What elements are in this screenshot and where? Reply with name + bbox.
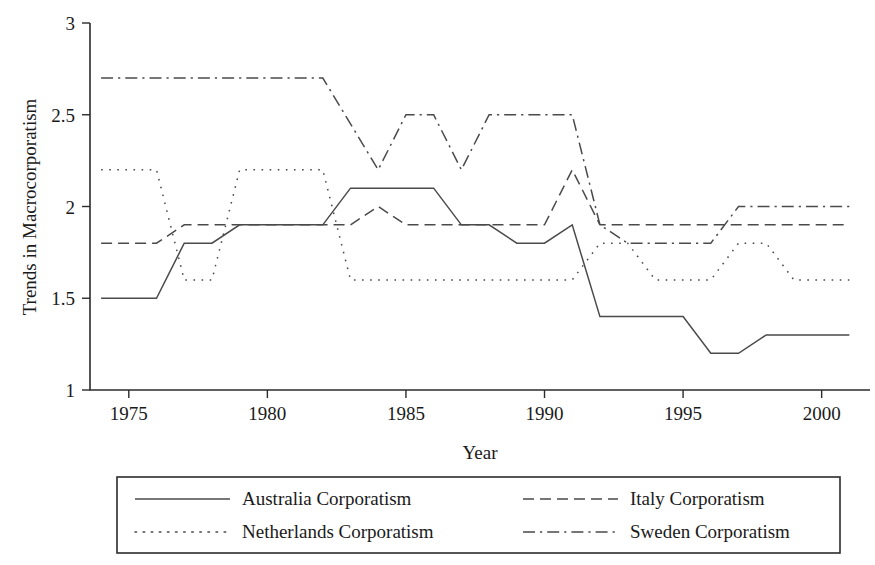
legend-label-netherlands: Netherlands Corporatism: [242, 521, 434, 542]
x-tick-label: 1995: [664, 403, 702, 424]
x-tick-label: 1975: [110, 403, 148, 424]
y-axis-tick-labels: 11.522.53: [51, 13, 75, 401]
chart-figure: 197519801985199019952000 11.522.53 Year …: [0, 0, 875, 565]
y-tick-label: 1.5: [51, 288, 75, 309]
legend-label-sweden: Sweden Corporatism: [630, 521, 790, 542]
series-line-sweden: [101, 78, 849, 243]
x-tick-label: 2000: [803, 403, 841, 424]
chart-series-group: [101, 78, 849, 353]
y-axis-title: Trends in Macrocorporatism: [19, 98, 40, 315]
series-line-italy: [101, 170, 849, 243]
y-tick-label: 2.5: [51, 105, 75, 126]
y-axis-ticks: [82, 23, 90, 390]
legend-label-italy: Italy Corporatism: [630, 488, 765, 509]
chart-axes: [82, 23, 870, 398]
legend-label-australia: Australia Corporatism: [242, 488, 412, 509]
y-tick-label: 1: [66, 380, 76, 401]
x-axis-ticks: [129, 390, 822, 398]
x-tick-label: 1990: [526, 403, 564, 424]
chart-legend: Australia CorporatismItaly CorporatismNe…: [117, 477, 840, 553]
x-tick-label: 1980: [248, 403, 286, 424]
y-tick-label: 3: [66, 13, 76, 34]
y-tick-label: 2: [66, 197, 76, 218]
x-axis-tick-labels: 197519801985199019952000: [110, 403, 841, 424]
x-axis-title: Year: [462, 442, 498, 463]
line-chart: 197519801985199019952000 11.522.53 Year …: [0, 0, 875, 565]
series-line-australia: [101, 188, 849, 353]
x-tick-label: 1985: [387, 403, 425, 424]
